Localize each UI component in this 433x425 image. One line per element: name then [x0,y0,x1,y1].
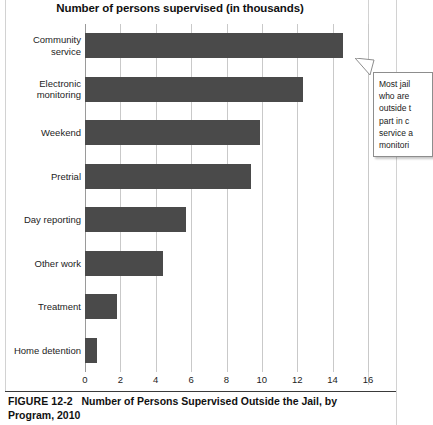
category-label-line: monitoring [3,89,81,101]
category-label-line: Electronic [3,78,81,90]
category-label: Home detention [3,345,81,357]
x-tick-label: 4 [153,374,158,385]
callout-box: Most jailwho areoutside tpart in cservic… [373,72,433,157]
category-label-line: Other work [3,258,81,270]
bar [85,207,186,232]
category-label-line: Weekend [3,127,81,139]
callout-line: outside t [379,102,428,114]
category-label-line: service [3,46,81,58]
x-tick-label: 12 [292,374,303,385]
bar [85,164,251,189]
category-label: Other work [3,258,81,270]
category-label-line: Community [3,34,81,46]
callout-line: service a [379,127,428,139]
bar [85,33,343,58]
category-label: Day reporting [3,214,81,226]
caption-divider [5,391,396,392]
plot-area [85,24,368,372]
category-label: Pretrial [3,171,81,183]
bar [85,77,303,102]
callout-line: who are [379,90,428,102]
category-axis-labels: CommunityserviceElectronicmonitoringWeek… [0,24,81,372]
x-tick-label: 14 [327,374,338,385]
category-label: Weekend [3,127,81,139]
callout-line: monitori [379,139,428,151]
x-tick-label: 6 [188,374,193,385]
figure-caption: FIGURE 12-2 Number of Persons Supervised… [8,395,380,422]
x-tick-label: 2 [118,374,123,385]
category-label-line: Pretrial [3,171,81,183]
bar [85,338,97,363]
bar [85,251,163,276]
page-rule-right-outer [396,0,397,425]
x-tick-label: 8 [224,374,229,385]
category-label-line: Treatment [3,301,81,313]
category-label: Treatment [3,301,81,313]
callout-pointer-icon [355,58,375,76]
callout-line: Most jail [379,78,428,90]
x-tick-label: 16 [363,374,374,385]
x-tick-label: 0 [82,374,87,385]
bar [85,294,117,319]
gridline-14 [333,24,334,372]
category-label-line: Home detention [3,345,81,357]
bar [85,120,260,145]
category-label-line: Day reporting [3,214,81,226]
chart-title: Number of persons supervised (in thousan… [0,2,360,14]
figure-number: FIGURE 12-2 [8,395,73,407]
gridline-16 [368,24,369,372]
x-tick-label: 10 [257,374,268,385]
x-axis-tick-labels: 0246810121416 [85,374,375,388]
category-label: Communityservice [3,34,81,57]
category-label: Electronicmonitoring [3,78,81,101]
callout-line: part in c [379,115,428,127]
